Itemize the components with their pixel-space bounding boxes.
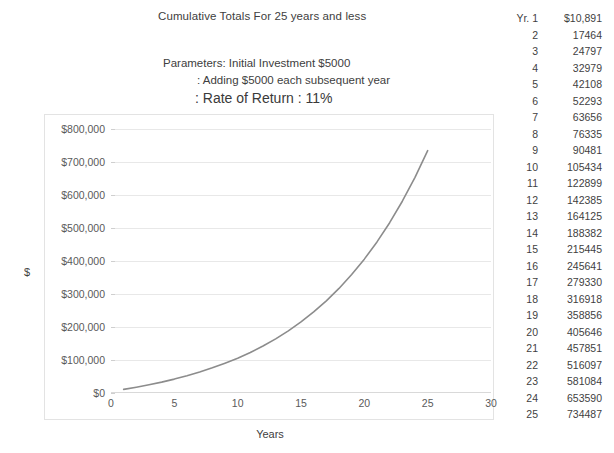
x-axis-tick-labels: 051015202530: [111, 397, 491, 415]
table-cell-year: 15: [498, 241, 548, 258]
y-axis-tick-label: $300,000: [61, 288, 105, 300]
table-cell-value: 24797: [548, 43, 602, 60]
table-row: 217464: [498, 27, 602, 44]
table-row: 16245641: [498, 258, 602, 275]
y-axis-title: $: [24, 266, 30, 278]
table-cell-year: 14: [498, 225, 548, 242]
table-row: 22516097: [498, 357, 602, 374]
table-cell-year: 19: [498, 307, 548, 324]
table-cell-year: 4: [498, 60, 548, 77]
table-cell-value: 245641: [548, 258, 602, 275]
table-row: 15215445: [498, 241, 602, 258]
table-cell-year: 10: [498, 159, 548, 176]
table-cell-year: 16: [498, 258, 548, 275]
x-axis-tick-label: 20: [358, 397, 370, 409]
table-cell-value: 581084: [548, 373, 602, 390]
y-axis-tick-label: $500,000: [61, 222, 105, 234]
y-axis-tick-mark: [111, 393, 115, 394]
table-cell-year: 9: [498, 142, 548, 159]
y-axis-tick-mark: [111, 294, 115, 295]
table-row: 763656: [498, 109, 602, 126]
table-cell-year: Yr. 1: [498, 10, 548, 27]
table-cell-value: 63656: [548, 109, 602, 126]
table-row: 19358856: [498, 307, 602, 324]
y-axis-tick-label: $200,000: [61, 321, 105, 333]
table-row: 23581084: [498, 373, 602, 390]
table-cell-year: 3: [498, 43, 548, 60]
cumulative-total-line-series: [111, 129, 491, 393]
table-cell-year: 12: [498, 192, 548, 209]
parameters-block: Parameters: Initial Investment $5000 : A…: [163, 55, 390, 108]
y-axis-tick-mark: [111, 195, 115, 196]
table-cell-year: 21: [498, 340, 548, 357]
y-axis-tick-mark: [111, 129, 115, 130]
table-row: 542108: [498, 76, 602, 93]
table-cell-value: 457851: [548, 340, 602, 357]
table-cell-year: 8: [498, 126, 548, 143]
y-axis-tick-mark: [111, 162, 115, 163]
table-row: 876335: [498, 126, 602, 143]
table-row: Yr. 1$10,891: [498, 10, 602, 27]
y-axis-tick-label: $100,000: [61, 354, 105, 366]
y-axis-tick-mark: [111, 228, 115, 229]
table-cell-year: 20: [498, 324, 548, 341]
table-cell-year: 2: [498, 27, 548, 44]
x-axis-tick-label: 10: [232, 397, 244, 409]
table-row: 10105434: [498, 159, 602, 176]
table-cell-year: 24: [498, 390, 548, 407]
table-row: 25734487: [498, 406, 602, 423]
table-cell-value: 405646: [548, 324, 602, 341]
table-row: 21457851: [498, 340, 602, 357]
table-cell-value: 279330: [548, 274, 602, 291]
table-cell-value: 42108: [548, 76, 602, 93]
table-cell-value: 164125: [548, 208, 602, 225]
page-title: Cumulative Totals For 25 years and less: [158, 10, 366, 22]
x-axis-tick-label: 30: [485, 397, 497, 409]
table-cell-value: 734487: [548, 406, 602, 423]
table-row: 18316918: [498, 291, 602, 308]
x-axis-tick-label: 25: [422, 397, 434, 409]
table-cell-year: 25: [498, 406, 548, 423]
table-cell-value: 105434: [548, 159, 602, 176]
table-cell-year: 18: [498, 291, 548, 308]
table-cell-value: 358856: [548, 307, 602, 324]
table-row: 13164125: [498, 208, 602, 225]
table-cell-year: 13: [498, 208, 548, 225]
table-cell-year: 11: [498, 175, 548, 192]
table-cell-value: $10,891: [548, 10, 602, 27]
y-axis-tick-mark: [111, 360, 115, 361]
series-line: [124, 151, 428, 390]
table-cell-value: 32979: [548, 60, 602, 77]
table-cell-value: 188382: [548, 225, 602, 242]
table-cell-value: 215445: [548, 241, 602, 258]
y-axis-tick-label: $600,000: [61, 189, 105, 201]
yearly-totals-table: Yr. 1$10,8912174643247974329795421086522…: [498, 10, 602, 423]
y-axis-tick-label: $700,000: [61, 156, 105, 168]
x-axis-tick-label: 5: [171, 397, 177, 409]
table-row: 11122899: [498, 175, 602, 192]
table-cell-year: 5: [498, 76, 548, 93]
table-cell-value: 52293: [548, 93, 602, 110]
table-cell-value: 316918: [548, 291, 602, 308]
parameters-line-initial-investment: Parameters: Initial Investment $5000: [163, 55, 390, 72]
y-axis-tick-label: $800,000: [61, 123, 105, 135]
table-cell-year: 22: [498, 357, 548, 374]
table-cell-value: 516097: [548, 357, 602, 374]
y-axis-tick-mark: [111, 261, 115, 262]
table-cell-value: 142385: [548, 192, 602, 209]
table-row: 432979: [498, 60, 602, 77]
table-row: 324797: [498, 43, 602, 60]
table-row: 24653590: [498, 390, 602, 407]
table-cell-value: 90481: [548, 142, 602, 159]
x-axis-title: Years: [45, 428, 495, 440]
table-cell-value: 76335: [548, 126, 602, 143]
y-axis-tick-labels: $800,000$700,000$600,000$500,000$400,000…: [45, 129, 105, 393]
table-row: 14188382: [498, 225, 602, 242]
table-cell-year: 7: [498, 109, 548, 126]
y-axis-tick-mark: [111, 327, 115, 328]
table-cell-value: 653590: [548, 390, 602, 407]
y-axis-tick-label: $400,000: [61, 255, 105, 267]
x-axis-tick-label: 0: [108, 397, 114, 409]
table-row: 12142385: [498, 192, 602, 209]
table-row: 990481: [498, 142, 602, 159]
